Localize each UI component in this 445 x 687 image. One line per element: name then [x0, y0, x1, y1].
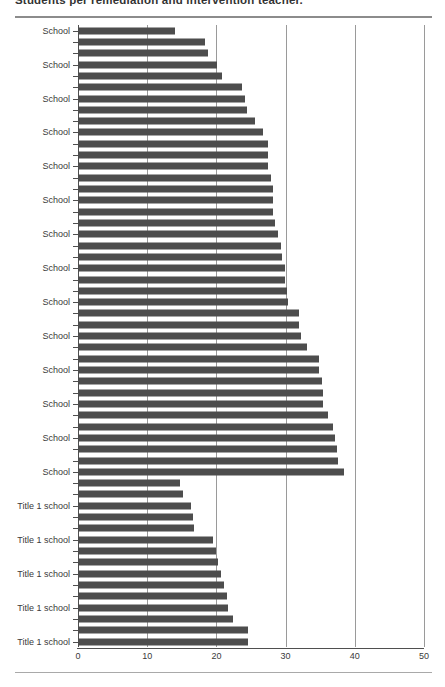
category-label: School	[42, 297, 70, 307]
category-label: Title 1 school	[17, 569, 70, 579]
chart-title-clipped-region: Students per remediation and interventio…	[15, 0, 432, 7]
bar-row: School	[78, 432, 424, 443]
bar	[78, 344, 307, 351]
bar	[78, 457, 338, 464]
bar	[78, 253, 282, 260]
bar	[78, 423, 333, 430]
bar	[78, 299, 288, 306]
bar	[78, 412, 328, 419]
bar	[78, 118, 255, 125]
bar-row	[78, 421, 424, 432]
bar	[78, 615, 233, 622]
category-label: School	[42, 127, 70, 137]
bar	[78, 219, 275, 226]
bar	[78, 208, 273, 215]
bar	[78, 72, 222, 79]
bar-row: Title 1 school	[78, 500, 424, 511]
bar-row	[78, 444, 424, 455]
bar	[78, 480, 180, 487]
x-tick-label: 10	[142, 651, 152, 661]
bar	[78, 468, 344, 475]
bar-row	[78, 240, 424, 251]
category-label: School	[42, 331, 70, 341]
bar	[78, 197, 273, 204]
bar	[78, 163, 268, 170]
bar-row	[78, 217, 424, 228]
bar	[78, 536, 213, 543]
category-label: Title 1 school	[17, 637, 70, 647]
bar	[78, 310, 299, 317]
bar	[78, 140, 268, 147]
category-label: School	[42, 229, 70, 239]
x-axis-line	[77, 648, 424, 649]
bar-row	[78, 104, 424, 115]
bar-row	[78, 523, 424, 534]
category-label: School	[42, 26, 70, 36]
bar	[78, 627, 248, 634]
bar	[78, 378, 322, 385]
bar	[78, 548, 216, 555]
bar	[78, 242, 281, 249]
bar	[78, 581, 224, 588]
bar-row	[78, 376, 424, 387]
bar	[78, 333, 301, 340]
bar	[78, 400, 323, 407]
category-label: School	[42, 433, 70, 443]
category-label: School	[42, 467, 70, 477]
bar-row	[78, 308, 424, 319]
bar	[78, 152, 268, 159]
bar-row: Title 1 school	[78, 534, 424, 545]
bar-row	[78, 478, 424, 489]
bar-row	[78, 353, 424, 364]
category-label: School	[42, 94, 70, 104]
bar-row	[78, 206, 424, 217]
bar-row	[78, 48, 424, 59]
bar	[78, 367, 319, 374]
bar	[78, 50, 208, 57]
bar	[78, 638, 248, 645]
bar-row	[78, 70, 424, 81]
bar-row: School	[78, 93, 424, 104]
bar	[78, 265, 285, 272]
header-divider	[15, 16, 432, 18]
bar-row: Title 1 school	[78, 568, 424, 579]
bar-row	[78, 149, 424, 160]
bar	[78, 502, 191, 509]
bar	[78, 95, 245, 102]
bar	[78, 491, 183, 498]
bar-row	[78, 410, 424, 421]
category-label: School	[42, 399, 70, 409]
bar-row	[78, 82, 424, 93]
category-label: School	[42, 263, 70, 273]
bar	[78, 27, 175, 34]
bar	[78, 514, 193, 521]
bar-row	[78, 387, 424, 398]
bar-row	[78, 511, 424, 522]
bar-row	[78, 557, 424, 568]
bar	[78, 559, 218, 566]
bar-row	[78, 545, 424, 556]
bar-row: Title 1 school	[78, 636, 424, 647]
bar	[78, 231, 278, 238]
bar-row: School	[78, 263, 424, 274]
bar	[78, 129, 263, 136]
bar-row: School	[78, 59, 424, 70]
bar	[78, 434, 335, 441]
bar	[78, 570, 221, 577]
category-label: School	[42, 195, 70, 205]
chart-title: Students per remediation and interventio…	[15, 0, 432, 6]
bar	[78, 287, 287, 294]
bar	[78, 525, 194, 532]
bar-row	[78, 274, 424, 285]
bar	[78, 604, 228, 611]
bar-row: School	[78, 398, 424, 409]
bar-row	[78, 183, 424, 194]
category-label: School	[42, 60, 70, 70]
bar-row	[78, 591, 424, 602]
category-label: School	[42, 365, 70, 375]
bar-row	[78, 138, 424, 149]
bar-row: School	[78, 330, 424, 341]
bar-row: School	[78, 161, 424, 172]
bar-row	[78, 36, 424, 47]
bar-row: School	[78, 127, 424, 138]
